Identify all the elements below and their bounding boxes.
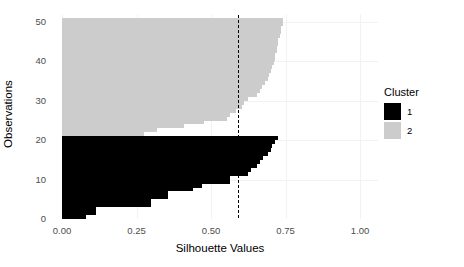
x-axis-title: Silhouette Values (62, 240, 378, 256)
silhouette-bar (62, 140, 275, 144)
legend-title: Cluster (384, 86, 460, 98)
color-swatch (384, 122, 401, 139)
y-axis-tick-label: 40 (18, 55, 46, 67)
gridline-vertical (360, 14, 361, 219)
silhouette-bar (62, 120, 204, 124)
silhouette-bar (62, 164, 257, 168)
silhouette-bar (62, 144, 272, 148)
color-swatch (384, 103, 401, 120)
legend: Cluster 12 (384, 86, 460, 141)
silhouette-bar (62, 93, 257, 97)
silhouette-bar (62, 199, 151, 203)
silhouette-bar (62, 152, 268, 156)
silhouette-plot: Observations 01020304050 0.000.250.500.7… (0, 0, 464, 267)
silhouette-bar (62, 49, 277, 53)
silhouette-bar (62, 195, 168, 199)
silhouette-bar (62, 101, 244, 105)
legend-entry: 1 (384, 103, 460, 120)
silhouette-bar (62, 89, 260, 93)
x-axis-tick-label: 1.00 (338, 225, 382, 236)
silhouette-bar (62, 207, 96, 211)
silhouette-bar (62, 42, 278, 46)
x-axis-tick-label: 0.25 (115, 225, 159, 236)
silhouette-bar (62, 136, 278, 140)
silhouette-bar (62, 168, 251, 172)
silhouette-bar (62, 117, 227, 121)
silhouette-bar (62, 148, 271, 152)
legend-key-swatch (384, 122, 401, 139)
silhouette-bar (62, 211, 96, 215)
silhouette-bar (62, 34, 280, 38)
silhouette-bar (62, 97, 248, 101)
legend-label: 2 (407, 125, 412, 136)
silhouette-bar (62, 124, 184, 128)
silhouette-bar (62, 65, 272, 69)
silhouette-bar (62, 191, 168, 195)
silhouette-bar (62, 46, 277, 50)
legend-key-swatch (384, 103, 401, 120)
silhouette-bar (62, 128, 157, 132)
x-axis-tick-label: 0.50 (189, 225, 233, 236)
x-axis-tick-label: 0.00 (40, 225, 84, 236)
silhouette-bar (62, 30, 281, 34)
silhouette-bar (62, 215, 86, 219)
silhouette-bar (62, 18, 283, 22)
legend-entry: 2 (384, 122, 460, 139)
y-axis-tick-label: 10 (18, 174, 46, 186)
silhouette-bar (62, 156, 263, 160)
y-axis-title: Observations (0, 0, 16, 228)
silhouette-bar (62, 81, 265, 85)
gridline-vertical (286, 14, 287, 219)
silhouette-bar (62, 26, 281, 30)
y-axis-tick-label: 20 (18, 134, 46, 146)
legend-label: 1 (407, 106, 412, 117)
y-axis-tick-label: 30 (18, 95, 46, 107)
legend-entries: 12 (384, 103, 460, 139)
silhouette-bar (62, 160, 260, 164)
silhouette-bar (62, 85, 262, 89)
silhouette-bar (62, 203, 151, 207)
silhouette-bar (62, 22, 283, 26)
y-axis-tick-label: 0 (18, 213, 46, 225)
silhouette-bar (62, 77, 268, 81)
silhouette-bar (62, 57, 275, 61)
silhouette-bar (62, 113, 230, 117)
y-axis-tick-label: 50 (18, 16, 46, 28)
x-axis-tick-label: 0.75 (264, 225, 308, 236)
silhouette-bar (62, 176, 230, 180)
silhouette-bar (62, 61, 274, 65)
y-axis-title-container: Observations (0, 0, 16, 228)
silhouette-bar (62, 132, 144, 136)
silhouette-bar (62, 172, 248, 176)
silhouette-bar (62, 38, 278, 42)
average-silhouette-dashed-line (238, 14, 239, 219)
silhouette-bar (62, 187, 193, 191)
silhouette-bar (62, 109, 236, 113)
plot-panel (62, 14, 378, 219)
silhouette-bar (62, 105, 242, 109)
silhouette-bar (62, 180, 230, 184)
silhouette-bar (62, 53, 275, 57)
silhouette-bar (62, 184, 202, 188)
silhouette-bar (62, 69, 271, 73)
